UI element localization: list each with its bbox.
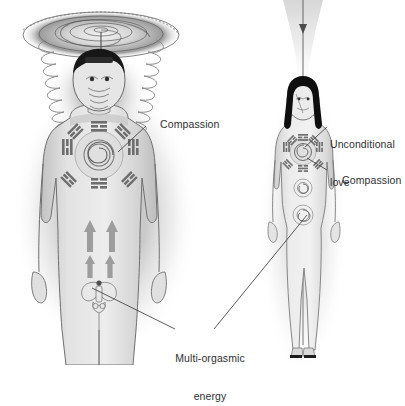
label-compassion-left-text: Compassion xyxy=(160,118,219,130)
label-multi-orgasmic-energy: Multi-orgasmic energy xyxy=(168,327,252,406)
third-eye-band xyxy=(85,57,113,63)
label-compassion-right: Compassion xyxy=(330,161,401,199)
label-multi-orgasmic-energy-line1: Multi-orgasmic xyxy=(168,352,252,365)
label-compassion-right-text: Compassion xyxy=(342,174,401,186)
male-figure xyxy=(13,11,197,365)
label-unconditional-love-line1: Unconditional xyxy=(330,138,395,151)
label-compassion-left: Compassion xyxy=(148,105,219,143)
label-multi-orgasmic-energy-line2: energy xyxy=(168,390,252,403)
